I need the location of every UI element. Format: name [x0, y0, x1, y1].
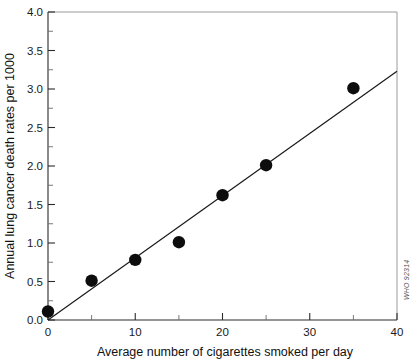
data-point: [129, 254, 141, 266]
y-tick-label-0p5: 0.5: [27, 276, 43, 288]
data-point: [216, 189, 228, 201]
data-point: [347, 82, 359, 94]
y-tick-label-1: 1.0: [27, 237, 43, 249]
y-tick-label-2p5: 2.5: [27, 122, 43, 134]
y-tick-label-1p5: 1.5: [27, 199, 43, 211]
y-tick-label-2: 2.0: [27, 160, 43, 172]
data-point: [85, 275, 97, 287]
x-axis-ticks: [48, 313, 397, 320]
y-tick-label-3: 3.0: [27, 83, 43, 95]
x-axis-title: Average number of cigarettes smoked per …: [97, 345, 354, 359]
data-point: [42, 305, 54, 317]
y-axis-ticks: [48, 12, 55, 320]
scatter-plot: 4.0 3.5 3.0 2.5 2.0 1.5 1.0 0.5 0.0 0 10…: [0, 0, 417, 364]
chart-figure: 4.0 3.5 3.0 2.5 2.0 1.5 1.0 0.5 0.0 0 10…: [0, 0, 417, 364]
data-point: [173, 236, 185, 248]
data-point: [260, 159, 272, 171]
y-tick-label-0: 0.0: [27, 314, 43, 326]
y-axis-title: Annual lung cancer death rates per 1000: [3, 53, 17, 279]
y-tick-label-3p5: 3.5: [27, 45, 43, 57]
x-tick-label-40: 40: [391, 326, 404, 338]
y-tick-label-4: 4.0: [27, 6, 43, 18]
data-point-group: [42, 82, 360, 318]
who-credit-label: WHO 92314: [403, 260, 410, 300]
x-tick-label-10: 10: [129, 326, 142, 338]
x-tick-label-20: 20: [216, 326, 229, 338]
x-tick-label-0: 0: [45, 326, 51, 338]
x-tick-label-30: 30: [303, 326, 316, 338]
plot-frame: [48, 12, 397, 320]
